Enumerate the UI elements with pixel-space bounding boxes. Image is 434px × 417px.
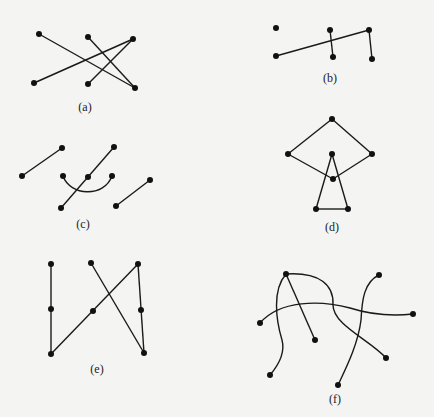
vertex [36,31,42,37]
edge [276,30,369,56]
edge [88,39,133,84]
edge [91,263,144,353]
graph-panel-d [285,116,375,212]
panel-label-a: (a) [78,100,91,115]
vertex [135,261,141,267]
vertex [90,308,96,314]
vertex [329,116,335,122]
curved-edge [270,274,286,375]
vertex [141,350,147,356]
vertex [345,206,351,212]
vertex [132,85,138,91]
edge [116,180,150,206]
edge [34,39,133,83]
vertex [369,56,375,62]
vertex [267,372,273,378]
vertex [48,306,54,312]
panel-label-f: (f) [329,392,341,407]
vertex [31,80,37,86]
vertex [147,177,153,183]
panel-label-d: (d) [325,220,339,235]
graph-panel-a [31,31,138,91]
vertex [109,173,115,179]
vertex [329,151,335,157]
vertex [19,173,25,179]
vertex [113,203,119,209]
edge [330,30,333,57]
vertex [273,25,279,31]
edge [316,154,332,209]
edge [288,119,332,154]
curved-edge [260,303,413,323]
vertex [138,307,144,313]
vertex [85,34,91,40]
vertex [330,176,336,182]
vertex [330,54,336,60]
vertex [59,145,65,151]
vertex [130,36,136,42]
vertex [383,355,389,361]
vertex [335,382,341,388]
graph-panel-f [257,271,416,388]
vertex [85,174,91,180]
graph-panel-e [48,260,147,357]
edge [369,30,372,59]
edge [286,274,315,340]
vertex [327,27,333,33]
edge [22,148,62,176]
edge [39,34,135,88]
panel-label-e: (e) [90,362,103,377]
vertex [60,173,66,179]
vertex [366,27,372,33]
graph-panel-b [273,25,375,62]
curved-edge [338,275,379,385]
vertex [58,205,64,211]
vertex [48,351,54,357]
vertex [85,81,91,87]
vertex [285,151,291,157]
vertex [313,206,319,212]
vertex [88,260,94,266]
vertex [111,144,117,150]
graph-panel-c [19,144,153,211]
vertex [273,53,279,59]
vertex [369,151,375,157]
panel-label-c: (c) [76,217,89,232]
vertex [48,261,54,267]
vertex [410,311,416,317]
vertex [376,272,382,278]
vertex [283,271,289,277]
graph-figure-canvas [0,0,434,417]
curved-edge [286,274,386,358]
vertex [257,320,263,326]
panel-label-b: (b) [323,71,337,86]
vertex [312,337,318,343]
edge [332,119,372,154]
